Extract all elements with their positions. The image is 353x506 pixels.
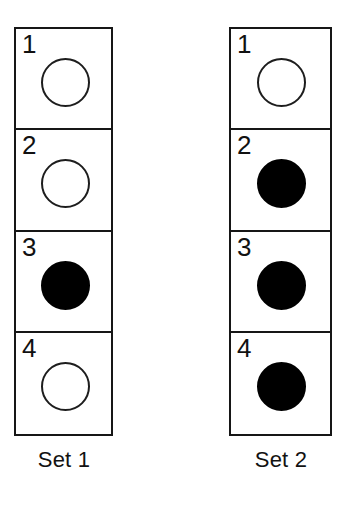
cell-number-label: 2 (237, 131, 251, 159)
circle-token-open (41, 362, 90, 411)
set-2-cell-3: 3 (231, 232, 330, 333)
set-2-cell-4: 4 (231, 333, 330, 434)
set-2-column: 1 2 3 4 (229, 27, 332, 436)
cell-number-label: 1 (237, 30, 251, 58)
set-2-cell-1: 1 (231, 29, 330, 130)
circle-token-filled (257, 159, 306, 208)
circle-token-filled (257, 362, 306, 411)
circle-token-open (257, 58, 306, 107)
two-set-circle-diagram: 1 2 3 4 Set 1 1 2 3 (0, 0, 353, 506)
cell-number-label: 2 (22, 131, 36, 159)
set-1-cell-3: 3 (16, 232, 111, 333)
set-1-cell-1: 1 (16, 29, 111, 130)
circle-token-open (41, 159, 90, 208)
cell-number-label: 4 (22, 334, 36, 362)
circle-token-filled (257, 261, 306, 310)
cell-number-label: 3 (22, 233, 36, 261)
set-1-column: 1 2 3 4 (14, 27, 113, 436)
circle-token-filled (41, 261, 90, 310)
cell-number-label: 4 (237, 334, 251, 362)
circle-token-open (41, 58, 90, 107)
set-1-cell-2: 2 (16, 130, 111, 231)
set-1-cell-4: 4 (16, 333, 111, 434)
set-2-cell-2: 2 (231, 130, 330, 231)
cell-number-label: 3 (237, 233, 251, 261)
set-1-caption: Set 1 (4, 447, 124, 473)
cell-number-label: 1 (22, 30, 36, 58)
set-2-caption: Set 2 (221, 447, 341, 473)
